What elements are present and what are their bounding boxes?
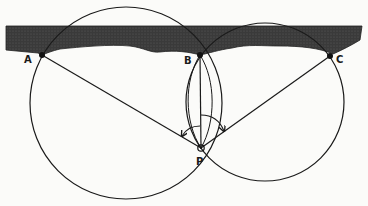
point-p-center bbox=[200, 147, 202, 149]
label-a: A bbox=[24, 54, 32, 65]
line-a-p bbox=[42, 55, 201, 148]
lens-arc-right bbox=[200, 55, 212, 148]
label-p: P bbox=[196, 156, 203, 167]
label-b: B bbox=[184, 55, 192, 66]
lens-arc-left bbox=[188, 55, 201, 148]
point-c bbox=[327, 53, 333, 59]
resection-diagram: A B C P bbox=[0, 0, 368, 206]
point-b bbox=[197, 52, 203, 58]
point-a bbox=[39, 52, 45, 58]
line-b-p bbox=[200, 55, 201, 148]
coastline bbox=[6, 26, 362, 55]
label-c: C bbox=[336, 54, 343, 65]
line-c-p bbox=[201, 56, 330, 148]
